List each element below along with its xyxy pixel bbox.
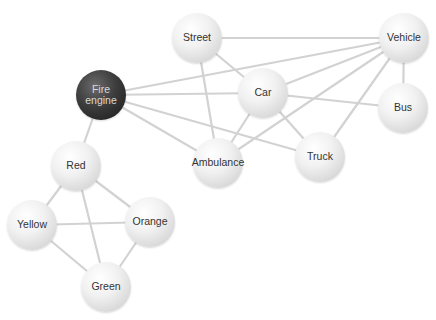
node-car: Car [238, 68, 288, 118]
node-label: Car [255, 87, 272, 98]
node-street: Street [172, 13, 222, 63]
node-vehicle: Vehicle [379, 13, 429, 63]
node-label: Vehicle [387, 32, 421, 43]
node-label: Green [91, 281, 120, 292]
node-red: Red [51, 141, 101, 191]
node-yellow: Yellow [7, 200, 57, 250]
node-green: Green [81, 262, 131, 312]
node-truck: Truck [295, 132, 345, 182]
node-label: Fireengine [85, 84, 117, 106]
node-orange: Orange [125, 197, 175, 247]
node-label: Orange [132, 216, 167, 227]
node-ambulance: Ambulance [193, 138, 243, 188]
node-label: Red [66, 160, 85, 171]
node-label: Bus [394, 102, 412, 113]
node-label: Yellow [17, 219, 47, 230]
node-bus: Bus [378, 83, 428, 133]
node-fire-engine: Fireengine [76, 70, 126, 120]
node-label: Street [183, 32, 211, 43]
node-label: Ambulance [192, 157, 245, 168]
network-diagram: FireengineStreetVehicleCarBusAmbulanceTr… [0, 0, 436, 320]
node-label: Truck [307, 151, 333, 162]
